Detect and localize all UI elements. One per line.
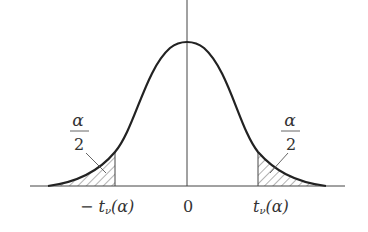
diagram-canvas: α 2 α 2 0 − tν(α) tν(α) <box>0 0 368 232</box>
right-area-numerator: α <box>284 110 296 130</box>
left-tail-region <box>48 152 115 186</box>
right-cutoff-label: tν(α) <box>253 197 289 216</box>
t-distribution-diagram: α 2 α 2 0 − tν(α) tν(α) <box>0 0 368 232</box>
left-area-denominator: 2 <box>74 135 84 154</box>
left-cutoff-label: − tν(α) <box>80 197 134 216</box>
center-label: 0 <box>183 197 193 216</box>
right-tail-region <box>258 152 326 186</box>
right-area-denominator: 2 <box>286 135 296 154</box>
left-area-numerator: α <box>72 110 84 130</box>
